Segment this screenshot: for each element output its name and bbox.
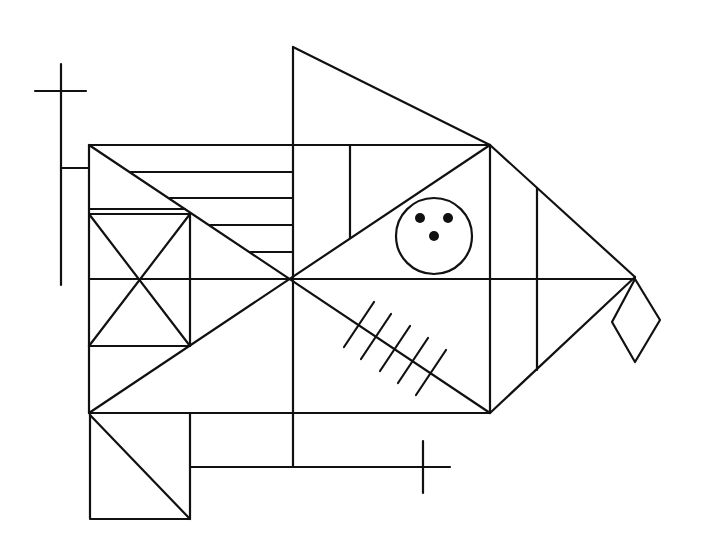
top-triangle xyxy=(293,47,490,145)
left-cross xyxy=(35,64,89,285)
upper-left-parallel-lines xyxy=(130,172,293,252)
rey-osterrieth-figure xyxy=(0,0,702,547)
upper-left-small-square-with-x xyxy=(89,209,190,346)
circle-with-three-dots xyxy=(396,198,472,274)
rectangle-midlines xyxy=(89,47,635,467)
bottom-left-square-with-diagonal xyxy=(90,413,190,519)
hatch-marks-five xyxy=(344,302,446,395)
